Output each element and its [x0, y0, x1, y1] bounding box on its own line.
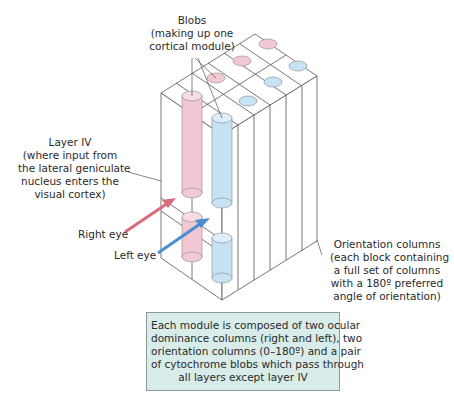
caption-line: orientation columns (0–180º) and a pair [151, 345, 335, 358]
orientation-label-line: angle of orientation) [330, 290, 444, 303]
layer-iv-label-line: (where input from [18, 149, 122, 162]
layer-iv-label-line: nucleus enters the [18, 175, 122, 188]
left-eye-label: Left eye [114, 249, 156, 262]
layer-iv-label: Layer IV (where input from the lateral g… [18, 136, 122, 201]
blobs-label-line: (making up one [140, 27, 244, 40]
layer-iv-label-line: Layer IV [18, 136, 122, 149]
caption-line: Each module is composed of two ocular [151, 319, 335, 332]
layer-iv-label-line: visual cortex) [18, 188, 122, 201]
right-eye-column-upper [182, 96, 202, 193]
caption-line: dominance columns (right and left), two [151, 332, 335, 345]
orientation-columns-label: Orientation columns (each block containi… [330, 238, 444, 303]
layer-iv-label-line: the lateral geniculate [18, 162, 122, 175]
caption-box: Each module is composed of two ocular do… [146, 312, 340, 391]
caption-line: all layers except layer IV [151, 371, 335, 384]
caption-line: of cytochrome blobs which pass through [151, 358, 335, 371]
left-eye-column-upper [212, 118, 232, 203]
blobs-label: Blobs (making up one cortical module) [140, 14, 244, 53]
right-eye-label: Right eye [78, 228, 128, 241]
blobs-label-line: Blobs [140, 14, 244, 27]
blobs-label-line: cortical module) [140, 40, 244, 53]
left-eye-column-lower [212, 238, 232, 278]
orientation-label-line: a full set of columns [330, 264, 444, 277]
orientation-label-line: with a 180º preferred [330, 277, 444, 290]
orientation-label-line: Orientation columns [330, 238, 444, 251]
orientation-label-line: (each block containing [330, 251, 444, 264]
